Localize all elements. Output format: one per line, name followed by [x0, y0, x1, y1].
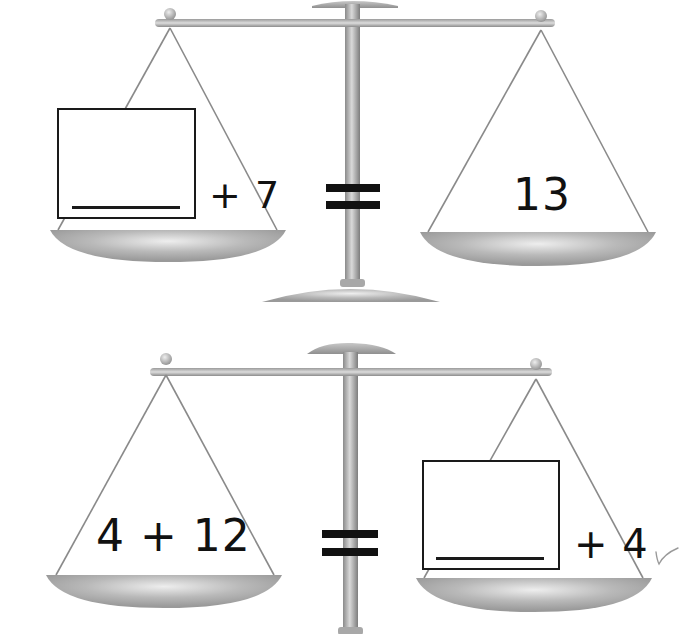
scale-1-right-pivot-ball	[535, 10, 547, 22]
problem-1-left-addend-text: + 7	[209, 176, 280, 214]
scale-1-left-pan	[50, 230, 286, 262]
problem-1-answer-line	[72, 206, 180, 209]
scale-1-base	[262, 289, 440, 302]
scale-1-right-pan	[420, 232, 656, 266]
problem-1-equals-top-bar	[326, 184, 380, 192]
scale-2-left-pan	[46, 575, 282, 608]
pencil-check-mark-icon	[652, 540, 682, 568]
scale-2-left-pivot-ball	[160, 353, 172, 365]
scale-1-left-pivot-ball	[164, 8, 176, 20]
problem-1-right-value: 13	[513, 173, 571, 217]
problem-2-left-expression: 4 + 12	[96, 514, 251, 558]
problem-2-equals-top-bar	[322, 530, 378, 538]
problem-2-answer-line	[436, 557, 544, 560]
problem-1-equals-bottom-bar	[326, 201, 380, 209]
scale-2	[46, 343, 652, 634]
scale-1-pole	[345, 4, 360, 284]
scale-2-pole	[343, 352, 358, 634]
scale-2-beam	[150, 368, 552, 376]
problem-1-answer-box[interactable]	[57, 108, 196, 219]
problem-2-equals-bottom-bar	[322, 548, 378, 556]
scale-2-right-pivot-ball	[530, 358, 542, 370]
worksheet-page: + 7 13 4 + 12 + 4	[0, 0, 693, 634]
problem-2-right-addend-text: + 4	[574, 524, 649, 564]
scale-1-beam	[155, 19, 555, 27]
scale-2-right-pan	[416, 578, 652, 612]
problem-2-answer-box[interactable]	[422, 460, 560, 570]
scale-2-collar	[338, 627, 363, 634]
scale-1-collar	[340, 279, 365, 287]
